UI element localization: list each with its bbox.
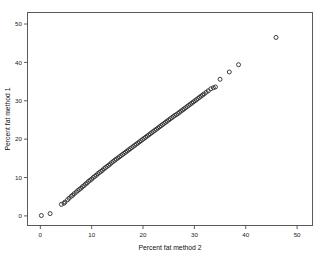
x-tick-label: 20 — [140, 231, 147, 238]
chart-canvas: 01020304050 01020304050 Percent fat meth… — [0, 0, 329, 256]
y-tick-label: 20 — [15, 135, 22, 142]
y-tick-label: 10 — [15, 174, 22, 181]
chart-background — [0, 0, 329, 256]
x-tick-label: 50 — [294, 231, 301, 238]
y-tick-label: 0 — [19, 212, 23, 219]
y-tick-label: 50 — [15, 20, 22, 27]
x-tick-label: 0 — [39, 231, 43, 238]
y-tick-label: 30 — [15, 97, 22, 104]
x-tick-label: 10 — [88, 231, 95, 238]
x-tick-label: 30 — [191, 231, 198, 238]
y-tick-label: 40 — [15, 59, 22, 66]
y-axis-title: Percent fat method 1 — [4, 87, 11, 150]
x-tick-label: 40 — [242, 231, 249, 238]
x-axis-title: Percent fat method 2 — [138, 244, 201, 251]
scatter-plot-chart: 01020304050 01020304050 Percent fat meth… — [0, 0, 329, 256]
